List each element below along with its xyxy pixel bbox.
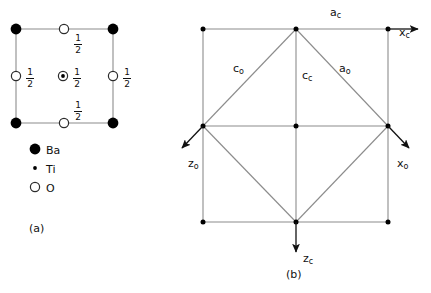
panel-caption-a: (a) <box>29 222 44 235</box>
panel-b-group <box>182 27 418 253</box>
o-atom-left <box>11 71 20 80</box>
legend-marker-ti <box>33 166 37 170</box>
label-z-o: zo <box>188 157 199 171</box>
label-c-c-subscript: c <box>308 74 312 83</box>
label-c-o: co <box>233 62 244 76</box>
label-z-c: zc <box>303 252 313 266</box>
ti-atom-center <box>61 74 65 78</box>
ba-atom-top-left <box>11 24 22 35</box>
figure-container: 1 2 1 2 1 2 1 2 1 2 Ba Ti O (a) (b) ac x… <box>0 0 431 293</box>
ortho-edge-bottom-right <box>296 126 388 222</box>
label-x-c-subscript: c <box>406 31 410 40</box>
label-c-c: cc <box>302 69 312 83</box>
legend-marker-ba <box>30 144 41 155</box>
ortho-edge-top-left <box>203 29 296 126</box>
ortho-edge-bottom-left <box>203 126 296 222</box>
panel-a-group <box>11 24 119 192</box>
o-atom-bottom <box>59 118 68 127</box>
panel-caption-b: (b) <box>286 268 302 281</box>
crystal-structure-diagram <box>0 0 431 293</box>
o-atom-top <box>59 24 68 33</box>
ba-atom-bottom-right <box>108 118 119 129</box>
lattice-point-bottom-right <box>386 220 391 225</box>
axis-arrow-xo <box>388 126 409 148</box>
legend-marker-o <box>30 182 39 191</box>
lattice-point-center <box>294 124 299 129</box>
lattice-point-bottom-left <box>201 220 206 225</box>
fraction-label-top: 1 2 <box>71 34 85 55</box>
lattice-point-top-center <box>294 27 299 32</box>
label-x-c: xc <box>399 26 410 40</box>
fraction-label-left: 1 2 <box>23 68 37 89</box>
o-atom-right <box>108 71 117 80</box>
fraction-label-bottom: 1 2 <box>71 101 85 122</box>
label-a-c-base: a <box>330 6 337 19</box>
label-x-o-subscript: o <box>404 162 409 171</box>
label-a-c-subscript: c <box>337 11 341 20</box>
axis-arrow-zo <box>182 126 203 148</box>
label-x-o: xo <box>397 157 408 171</box>
label-a-c: ac <box>330 6 341 20</box>
label-a-o: ao <box>339 62 351 76</box>
ba-atom-top-right <box>108 24 119 35</box>
fraction-label-right: 1 2 <box>120 68 134 89</box>
label-a-o-base: a <box>339 62 346 75</box>
legend-label-ba: Ba <box>46 144 60 157</box>
label-c-o-subscript: o <box>239 67 244 76</box>
ba-atom-bottom-left <box>11 118 22 129</box>
label-z-c-subscript: c <box>309 257 313 266</box>
legend-label-ti: Ti <box>46 163 55 176</box>
lattice-point-top-left <box>201 27 206 32</box>
fraction-label-center: 1 2 <box>70 68 84 89</box>
label-z-o-subscript: o <box>194 162 199 171</box>
legend-label-o: O <box>46 182 55 195</box>
label-a-o-subscript: o <box>346 67 351 76</box>
